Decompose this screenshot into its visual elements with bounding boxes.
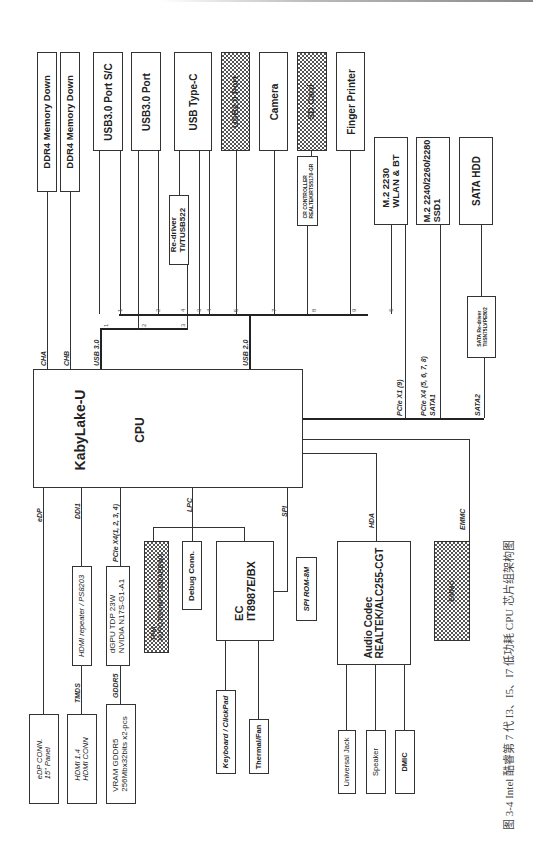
m2-ssd-box: M.2 2240/2260/2280SSD1 xyxy=(416,137,450,225)
usb20-drop-6 xyxy=(391,225,392,314)
dgpu-label: dGPU TDP 23WNVIDIA N17S-G1-A1 xyxy=(109,579,127,653)
lpc-label: LPC xyxy=(186,498,193,512)
usb-type-c-box: USB Type-C xyxy=(174,52,212,151)
spi-rom-label: SPI ROM-8M xyxy=(302,567,310,612)
usb20-num-9: 9 xyxy=(351,309,357,312)
usb30-port-label: USB3.0 Port xyxy=(141,73,152,131)
jack-line xyxy=(346,665,347,734)
cha-label: CHA xyxy=(40,351,47,366)
keyboard-line xyxy=(225,641,226,695)
gddr5-label: GDDR5 xyxy=(112,673,119,698)
tmds-label: TMDS xyxy=(74,683,81,703)
cpu-label: CPU xyxy=(133,417,147,442)
keyboard-box: Keyboard / ClickPad xyxy=(216,690,236,774)
usb20-drop-7 xyxy=(274,151,275,314)
redriver-label: Re-driverTI/TUSB522 xyxy=(170,208,188,252)
usb20-num-1: 1 xyxy=(117,309,123,312)
ddr4-b-label: DDR4 Memory Down xyxy=(65,75,75,168)
ec-line1: EC xyxy=(233,606,245,621)
tpm-line2: NUVOTON/NPCT650ABBWX xyxy=(157,553,164,640)
dgpu-line1: dGPU TDP 23W xyxy=(108,595,117,653)
sd-to-cr xyxy=(311,151,312,156)
speaker-label: Speaker xyxy=(372,748,380,776)
m2-wlan-label: M.2 2230WLAN & BT xyxy=(381,154,402,207)
ddr4-a-label: DDR4 Memory Down xyxy=(42,75,52,168)
audio-codec-box: Audio CodecREALTEK/ALC255-CGT xyxy=(337,541,411,665)
hdmi-conn-line2: HDMI CONN xyxy=(81,737,90,780)
emmc-bus-label: EMMC xyxy=(459,509,466,530)
pcie-x4-line xyxy=(440,225,441,418)
usb30-port-num-3: 3 xyxy=(180,324,186,327)
page-edge-shadow xyxy=(160,0,533,2)
dmic-line xyxy=(404,665,405,734)
usb20-drop-4 xyxy=(209,151,210,314)
usb-c-to-redriver xyxy=(179,151,180,195)
usb20-drop-3 xyxy=(199,151,200,314)
redriver-line1: Re-driver xyxy=(169,217,178,252)
thermal-line xyxy=(258,641,259,719)
usb20-num-4b: 4 xyxy=(206,309,212,312)
speaker-box: Speaker xyxy=(366,730,386,794)
usb30-bus xyxy=(100,328,188,330)
cr-line2: REALTEK/RTS5170-GR xyxy=(307,164,313,219)
edp-conn-label: eDP CONN.15" Panel xyxy=(36,739,53,780)
ec-spi-link xyxy=(273,591,288,592)
pcie-sata-bus xyxy=(303,418,484,420)
vram-box: VRAM GDDR5256Mbx32bits x2-pcs xyxy=(106,704,136,804)
emmc-h-line xyxy=(303,439,469,440)
universal-jack-box: Universal Jack xyxy=(338,730,356,794)
chb-line xyxy=(70,192,71,369)
pcie-x4-label: PCIe X4 (5, 6, 7, 8) xyxy=(420,356,427,416)
gddr5-line xyxy=(120,666,121,704)
usb20-bus xyxy=(119,314,368,316)
edp-line xyxy=(43,488,44,714)
pcie-x1-label: PCIe X1 (9) xyxy=(396,379,403,416)
spi-rom-box: SPI ROM-8M xyxy=(296,557,317,621)
usb30-sc-label: USB3.0 Port S/C xyxy=(103,63,114,140)
usb20-num-8: 8 xyxy=(311,309,317,312)
m2-wlan-box: M.2 2230WLAN & BT xyxy=(374,137,408,225)
m2-ssd-label: M.2 2240/2260/2280SSD1 xyxy=(423,140,443,223)
usb20-num-5: 5 xyxy=(233,309,239,312)
debug-drop xyxy=(192,527,193,541)
usb20-drop-5 xyxy=(236,151,237,314)
dgpu-box: dGPU TDP 23WNVIDIA N17S-G1-A1 xyxy=(106,566,130,666)
cr-controller-box: CR CONTROLLERREALTEK/RTS5170-GR xyxy=(297,156,318,226)
ddr4-memory-a-box: DDR4 Memory Down xyxy=(37,52,57,192)
ddr4-memory-b-box: DDR4 Memory Down xyxy=(60,52,80,192)
usb-c-redriver-drop xyxy=(187,265,188,329)
debug-conn-label: Debug Conn. xyxy=(188,551,197,601)
hdmi-conn-box: HDMI 1.4HDMI CONN xyxy=(67,714,97,804)
usb20-num-4a: 4 xyxy=(180,309,186,312)
m2-wlan-line1: M.2 2230 xyxy=(380,168,391,208)
usb30-port-num-2: 2 xyxy=(141,324,147,327)
camera-label: Camera xyxy=(268,83,279,120)
tmds-line xyxy=(81,666,82,714)
usb30-port-num-1: 1 xyxy=(103,324,109,327)
dmic-label: DMIC xyxy=(401,752,409,771)
usb20-port-label: USB2.0 Port xyxy=(231,75,241,127)
finger-printer-label: Finger Printer xyxy=(345,69,356,135)
usb20-num-6: 6 xyxy=(388,309,394,312)
sd-card-box: SD Card xyxy=(297,52,327,151)
ec-line2: IT8987E/BX xyxy=(245,561,257,621)
audio-codec-label: Audio CodecREALTEK/ALC255-CGT xyxy=(363,548,385,659)
m2-ssd-line2: SSD1 xyxy=(432,199,442,223)
emmc-label: EMMC xyxy=(448,580,456,601)
keyboard-label: Keyboard / ClickPad xyxy=(222,696,230,769)
finger-printer-box: Finger Printer xyxy=(336,52,365,151)
audio-line1: Audio Codec xyxy=(363,597,374,659)
usb-type-c-label: USB Type-C xyxy=(188,73,199,130)
hda-v-line xyxy=(376,453,377,541)
usb30-trunk xyxy=(100,329,102,369)
thermal-fan-box: Thermal/Fan xyxy=(249,719,269,774)
hda-h-line xyxy=(303,453,376,454)
usb20-drop-9 xyxy=(350,151,351,314)
cpu-box: KabyLake-U CPU xyxy=(33,369,303,488)
ddi1-line xyxy=(81,488,82,566)
usb20-port-box: USB2.0 Port xyxy=(221,52,250,151)
audio-line2: REALTEK/ALC255-CGT xyxy=(374,548,385,659)
sata1-label: SATA1 xyxy=(429,394,436,416)
usb30-sc-drop xyxy=(99,151,100,314)
sata-redriver-box: SATA Re-driverTI/SN75LVPE802 xyxy=(467,296,496,358)
